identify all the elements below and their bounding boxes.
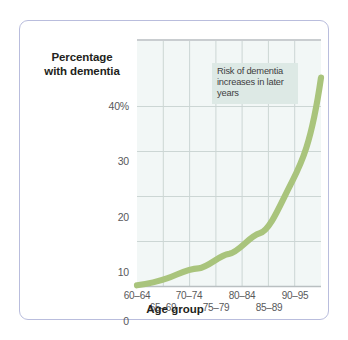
annotation-line-3: years bbox=[217, 88, 294, 99]
x-tick-label-90-95: 90–95 bbox=[272, 290, 318, 301]
plot-top-rule bbox=[137, 39, 321, 41]
annotation-callout: Risk of dementia increases in later year… bbox=[212, 63, 298, 104]
dementia-percentage-line bbox=[137, 78, 321, 286]
y-tick-label-30: 30 bbox=[89, 155, 129, 167]
x-tick-label-70-74: 70–74 bbox=[166, 290, 212, 301]
y-tick-label-40: 40% bbox=[89, 100, 129, 112]
annotation-line-2: increases in later bbox=[217, 77, 294, 88]
plot-area: Risk of dementia increases in later year… bbox=[137, 39, 321, 287]
y-axis-title-line-1: Percentage bbox=[34, 51, 130, 65]
annotation-line-1: Risk of dementia bbox=[217, 66, 294, 77]
y-axis-title-line-2: with dementia bbox=[34, 65, 130, 79]
y-axis-title: Percentage with dementia bbox=[34, 51, 130, 78]
x-tick-label-80-84: 80–84 bbox=[219, 290, 265, 301]
chart-card: Percentage with dementia 40% 30 20 10 0 bbox=[19, 20, 329, 320]
y-tick-label-10: 10 bbox=[89, 266, 129, 278]
x-axis-title: Age group bbox=[20, 303, 330, 315]
x-tick-label-60-64: 60–64 bbox=[114, 290, 160, 301]
y-tick-label-0: 0 bbox=[89, 315, 129, 327]
y-tick-label-20: 20 bbox=[89, 211, 129, 223]
